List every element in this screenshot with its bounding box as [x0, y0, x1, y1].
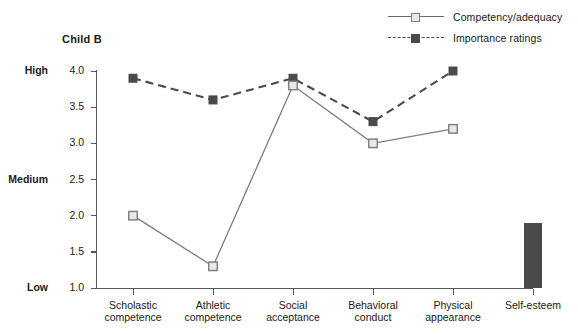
- data-point-open-square: [289, 81, 298, 90]
- data-point-open-square: [449, 125, 458, 134]
- series-line: [133, 85, 453, 266]
- data-point-filled-square: [209, 96, 217, 104]
- data-point-open-square: [209, 262, 218, 271]
- series-importance-ratings: [129, 67, 457, 126]
- series-layer: [0, 0, 578, 334]
- data-point-open-square: [129, 211, 138, 220]
- data-point-open-square: [369, 139, 378, 148]
- data-point-filled-square: [369, 118, 377, 126]
- data-point-filled-square: [449, 67, 457, 75]
- chart-container: Competency/adequacy Importance ratings C…: [0, 0, 578, 334]
- series-competency-adequacy: [129, 81, 458, 270]
- data-point-filled-square: [129, 74, 137, 82]
- self-esteem-bar: [524, 223, 542, 288]
